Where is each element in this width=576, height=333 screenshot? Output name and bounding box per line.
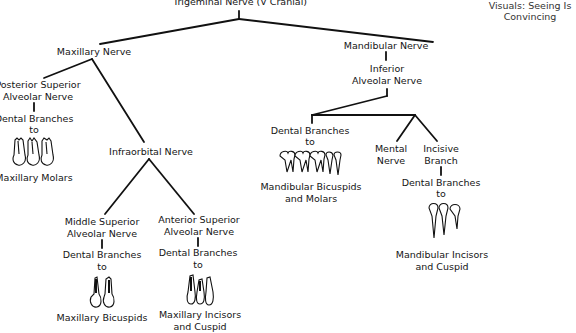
trigeminal-nerve-diagram: Trigeminal Nerve (V Cranial) Visuals: Se… <box>0 0 576 333</box>
mandibular-incisors-label-1: Mandibular Incisors <box>396 249 488 261</box>
incisive-branch-label-1: Incisive <box>423 143 459 155</box>
caption-line2: Convincing <box>504 11 557 23</box>
infraorbital-nerve-label: Infraorbital Nerve <box>109 146 193 158</box>
inferior-alveolar-label-1: Inferior <box>370 63 404 75</box>
mandibular-bicuspids-molars-icon <box>279 150 343 176</box>
maxillary-molars-label: Maxillary Molars <box>0 172 73 184</box>
incisive-branch-label-2: Branch <box>424 155 458 167</box>
maxillary-incisors-label-1: Maxillary Incisors <box>159 309 241 321</box>
posterior-superior-label-2: Alveolar Nerve <box>3 91 73 103</box>
mandibular-to-label: to <box>305 136 315 148</box>
mandibular-incisors-cuspid-icon <box>427 202 463 242</box>
middle-to-label: to <box>97 261 107 273</box>
anterior-dental-branches-label: Dental Branches <box>159 247 238 259</box>
mandibular-nerve-label: Mandibular Nerve <box>344 40 428 52</box>
maxillary-bicuspids-label: Maxillary Bicuspids <box>57 312 148 324</box>
mental-nerve-label-1: Mental <box>375 143 407 155</box>
anterior-superior-label-2: Alveolar Nerve <box>164 226 234 238</box>
anterior-to-label: to <box>193 259 203 271</box>
mandibular-incisors-label-2: and Cuspid <box>415 261 468 273</box>
maxillary-molars-icon <box>12 137 56 167</box>
maxillary-incisors-label-2: and Cuspid <box>173 321 226 333</box>
maxillary-bicuspids-icon <box>88 276 118 310</box>
mandibular-bicuspids-label-2: and Molars <box>285 193 337 205</box>
mandibular-bicuspids-label-1: Mandibular Bicuspids <box>260 181 361 193</box>
middle-superior-label-1: Middle Superior <box>65 216 140 228</box>
inferior-alveolar-label-2: Alveolar Nerve <box>352 75 422 87</box>
maxillary-incisors-cuspid-icon <box>184 274 216 308</box>
mental-nerve-label-2: Nerve <box>377 155 405 167</box>
posterior-superior-label-1: Posterior Superior <box>0 79 81 91</box>
maxillary-nerve-label: Maxillary Nerve <box>57 46 131 58</box>
incisive-to-label: to <box>436 188 446 200</box>
middle-superior-label-2: Alveolar Nerve <box>67 228 137 240</box>
anterior-superior-label-1: Anterior Superior <box>158 214 240 226</box>
posterior-to-label: to <box>29 124 39 136</box>
middle-dental-branches-label: Dental Branches <box>63 249 142 261</box>
root-label-trigeminal: Trigeminal Nerve (V Cranial) <box>173 0 307 8</box>
